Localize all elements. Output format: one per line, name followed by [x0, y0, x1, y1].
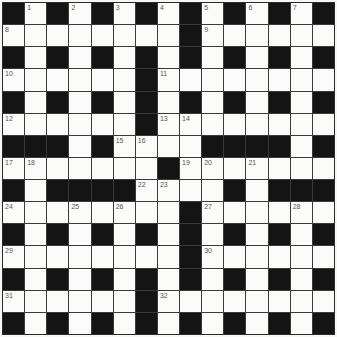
grid-cell[interactable] — [158, 246, 179, 267]
grid-cell[interactable] — [92, 158, 113, 179]
grid-cell[interactable] — [47, 202, 68, 223]
grid-cell[interactable]: 4 — [158, 3, 179, 24]
grid-cell[interactable] — [291, 92, 312, 113]
grid-cell[interactable] — [69, 291, 90, 312]
grid-cell[interactable] — [69, 269, 90, 290]
grid-cell[interactable]: 9 — [202, 25, 223, 46]
grid-cell[interactable] — [202, 47, 223, 68]
grid-cell[interactable] — [92, 291, 113, 312]
grid-cell[interactable]: 24 — [3, 202, 24, 223]
grid-cell[interactable] — [246, 224, 267, 245]
grid-cell[interactable] — [224, 291, 245, 312]
grid-cell[interactable] — [158, 92, 179, 113]
grid-cell[interactable] — [25, 269, 46, 290]
grid-cell[interactable]: 26 — [114, 202, 135, 223]
grid-cell[interactable]: 15 — [114, 136, 135, 157]
grid-cell[interactable] — [114, 69, 135, 90]
grid-cell[interactable]: 6 — [246, 3, 267, 24]
grid-cell[interactable]: 30 — [202, 246, 223, 267]
grid-cell[interactable]: 22 — [136, 180, 157, 201]
grid-cell[interactable] — [291, 313, 312, 334]
grid-cell[interactable]: 19 — [180, 158, 201, 179]
grid-cell[interactable] — [246, 114, 267, 135]
grid-cell[interactable] — [269, 114, 290, 135]
grid-cell[interactable] — [47, 246, 68, 267]
grid-cell[interactable]: 17 — [3, 158, 24, 179]
grid-cell[interactable]: 5 — [202, 3, 223, 24]
grid-cell[interactable] — [224, 158, 245, 179]
grid-cell[interactable] — [114, 92, 135, 113]
grid-cell[interactable]: 13 — [158, 114, 179, 135]
grid-cell[interactable] — [69, 47, 90, 68]
grid-cell[interactable]: 23 — [158, 180, 179, 201]
grid-cell[interactable] — [114, 158, 135, 179]
grid-cell[interactable] — [246, 180, 267, 201]
grid-cell[interactable] — [92, 25, 113, 46]
grid-cell[interactable] — [69, 25, 90, 46]
grid-cell[interactable] — [291, 47, 312, 68]
grid-cell[interactable] — [202, 69, 223, 90]
grid-cell[interactable] — [224, 246, 245, 267]
grid-cell[interactable] — [313, 291, 334, 312]
grid-cell[interactable] — [47, 158, 68, 179]
grid-cell[interactable] — [69, 69, 90, 90]
grid-cell[interactable] — [114, 25, 135, 46]
grid-cell[interactable] — [114, 246, 135, 267]
grid-cell[interactable]: 10 — [3, 69, 24, 90]
grid-cell[interactable]: 31 — [3, 291, 24, 312]
grid-cell[interactable] — [158, 25, 179, 46]
grid-cell[interactable] — [180, 180, 201, 201]
grid-cell[interactable] — [269, 69, 290, 90]
grid-cell[interactable] — [224, 25, 245, 46]
grid-cell[interactable] — [114, 291, 135, 312]
grid-cell[interactable] — [25, 25, 46, 46]
grid-cell[interactable] — [136, 158, 157, 179]
grid-cell[interactable] — [92, 114, 113, 135]
grid-cell[interactable] — [25, 47, 46, 68]
grid-cell[interactable]: 14 — [180, 114, 201, 135]
grid-cell[interactable] — [25, 291, 46, 312]
grid-cell[interactable] — [25, 224, 46, 245]
grid-cell[interactable] — [246, 47, 267, 68]
grid-cell[interactable] — [180, 136, 201, 157]
grid-cell[interactable] — [224, 202, 245, 223]
grid-cell[interactable] — [291, 136, 312, 157]
grid-cell[interactable] — [180, 69, 201, 90]
grid-cell[interactable] — [158, 224, 179, 245]
grid-cell[interactable] — [313, 246, 334, 267]
grid-cell[interactable] — [246, 92, 267, 113]
grid-cell[interactable]: 25 — [69, 202, 90, 223]
grid-cell[interactable] — [246, 291, 267, 312]
grid-cell[interactable]: 16 — [136, 136, 157, 157]
grid-cell[interactable]: 27 — [202, 202, 223, 223]
grid-cell[interactable] — [269, 291, 290, 312]
grid-cell[interactable] — [158, 136, 179, 157]
grid-cell[interactable] — [269, 246, 290, 267]
grid-cell[interactable]: 32 — [158, 291, 179, 312]
grid-cell[interactable] — [69, 114, 90, 135]
grid-cell[interactable] — [246, 269, 267, 290]
grid-cell[interactable] — [158, 269, 179, 290]
grid-cell[interactable] — [69, 246, 90, 267]
grid-cell[interactable] — [92, 246, 113, 267]
grid-cell[interactable] — [291, 269, 312, 290]
grid-cell[interactable] — [291, 224, 312, 245]
grid-cell[interactable] — [25, 313, 46, 334]
grid-cell[interactable] — [114, 224, 135, 245]
grid-cell[interactable] — [69, 313, 90, 334]
grid-cell[interactable]: 29 — [3, 246, 24, 267]
grid-cell[interactable] — [291, 158, 312, 179]
grid-cell[interactable] — [313, 25, 334, 46]
grid-cell[interactable]: 21 — [246, 158, 267, 179]
grid-cell[interactable]: 3 — [114, 3, 135, 24]
grid-cell[interactable] — [92, 69, 113, 90]
grid-cell[interactable] — [136, 25, 157, 46]
grid-cell[interactable]: 1 — [25, 3, 46, 24]
grid-cell[interactable] — [25, 202, 46, 223]
grid-cell[interactable] — [114, 313, 135, 334]
grid-cell[interactable] — [158, 313, 179, 334]
grid-cell[interactable] — [136, 246, 157, 267]
grid-cell[interactable]: 8 — [3, 25, 24, 46]
grid-cell[interactable]: 28 — [291, 202, 312, 223]
grid-cell[interactable] — [246, 25, 267, 46]
